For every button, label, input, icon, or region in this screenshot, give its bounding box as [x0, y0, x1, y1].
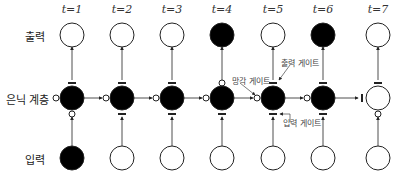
forget-gate-open-icon: [153, 95, 159, 101]
forget-gate-open-icon: [53, 95, 59, 101]
input-node: [261, 146, 285, 170]
input-node: [210, 146, 234, 170]
lstm-unrolled-diagram: [0, 0, 396, 175]
hidden-node: [110, 86, 134, 110]
output-node: [261, 23, 285, 47]
annotation-forget-gate: 망각 게이트: [232, 75, 270, 86]
annotation-input-gate: 입력 게이트: [283, 117, 321, 128]
forget-gate-open-icon: [203, 95, 209, 101]
hidden-node: [60, 86, 84, 110]
input-node: [110, 146, 134, 170]
hidden-node: [261, 86, 285, 110]
hidden-node: [210, 86, 234, 110]
annotation-output-gate: 출력 게이트: [281, 57, 319, 68]
forget-gate-open-icon: [254, 95, 260, 101]
input-node: [311, 146, 335, 170]
output-node: [311, 23, 335, 47]
input-node: [160, 146, 184, 170]
forget-gate-open-icon: [103, 95, 109, 101]
input-gate-open-icon: [69, 111, 75, 117]
hidden-node: [366, 86, 390, 110]
input-node: [366, 146, 390, 170]
output-gate-open-icon: [219, 80, 225, 86]
output-node: [366, 23, 390, 47]
output-node: [110, 23, 134, 47]
hidden-node: [311, 86, 335, 110]
forget-gate-open-icon: [304, 95, 310, 101]
input-node: [60, 146, 84, 170]
hidden-node: [160, 86, 184, 110]
input-gate-open-icon: [375, 111, 381, 117]
output-node: [60, 23, 84, 47]
output-node: [160, 23, 184, 47]
output-node: [210, 23, 234, 47]
